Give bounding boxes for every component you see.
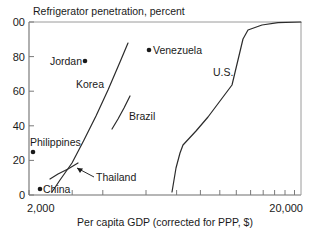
y-tick-label-100: 00 [13,16,25,28]
series-label-thailand: Thailand [96,171,136,183]
point-label-philippines: Philippines [30,136,81,148]
point-marker-china [38,187,43,192]
point-marker-jordan [83,59,88,64]
chart-title: Refrigerator penetration, percent [33,5,185,17]
chart-figure: Refrigerator penetration, percent 00 80 … [0,0,317,231]
y-axis-ticks [29,22,34,195]
point-label-venezuela: Venezuela [153,44,202,56]
x-axis-title: Per capita GDP (corrected for PPP, $) [77,216,253,228]
x-tick-label-min: 2,000 [27,202,55,214]
point-marker-venezuela [147,48,152,53]
series-label-brazil: Brazil [129,110,155,122]
series-label-korea: Korea [76,78,104,90]
point-label-china: China [43,183,71,195]
thailand-annotation-arrow [77,168,94,177]
series-label-us: U.S. [213,66,233,78]
series-line-thailand [50,163,78,179]
point-marker-philippines [31,150,36,155]
x-tick-label-max: 20,000 [269,202,303,214]
y-tick-label-20: 20 [13,154,25,166]
series-line-brazil [112,96,130,129]
y-tick-label-0: 0 [19,189,25,201]
y-tick-label-80: 80 [13,51,25,63]
y-tick-label-40: 40 [13,120,25,132]
y-tick-label-60: 60 [13,85,25,97]
point-label-jordan: Jordan [50,55,82,67]
chart-canvas: Refrigerator penetration, percent 00 80 … [0,0,317,231]
